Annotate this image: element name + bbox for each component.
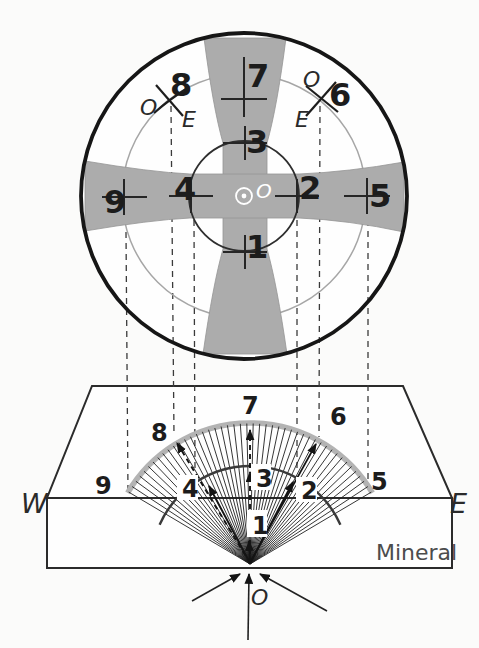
ordinary-ray-label-8: O: [140, 95, 157, 120]
extraordinary-ray-label-8: E: [182, 107, 196, 132]
point-4-label: 4: [174, 170, 196, 208]
point-8-label: 8: [170, 66, 192, 104]
ray-4-label: 4: [182, 475, 199, 503]
point-3-label: 3: [246, 123, 268, 161]
optical-mineralogy-diagram: O 7 3 1 9 4 2 5 8 6 O E O E: [0, 0, 479, 648]
ray-2-label: 2: [301, 477, 318, 505]
scanned-diagram-page: O 7 3 1 9 4 2 5 8 6 O E O E: [0, 0, 479, 648]
ray-8-label: 8: [151, 419, 168, 447]
center-o-label: O: [256, 179, 272, 203]
point-2-label: 2: [299, 169, 321, 207]
origin-o-label: O: [251, 585, 268, 610]
west-label: W: [21, 488, 49, 519]
ray-5-label: 5: [371, 468, 388, 496]
mineral-label: Mineral: [376, 540, 457, 565]
ray-9-label: 9: [95, 472, 112, 500]
incident-arrow-center: [248, 574, 249, 640]
point-1-label: 1: [246, 228, 268, 266]
point-9-label: 9: [104, 183, 126, 221]
ray-7-label: 7: [242, 392, 259, 420]
east-label: E: [450, 488, 467, 519]
point-5-label: 5: [369, 177, 391, 215]
point-7-label: 7: [247, 57, 269, 95]
ray-3-label: 3: [256, 465, 273, 493]
interference-figure: O 7 3 1 9 4 2 5 8 6 O E O E: [81, 33, 407, 359]
ray-6-label: 6: [330, 403, 347, 431]
center-dot: [242, 194, 247, 199]
extraordinary-ray-label-6: E: [295, 107, 309, 132]
ordinary-ray-label-6: O: [303, 67, 320, 92]
ray-1-label: 1: [252, 512, 269, 540]
point-6-label: 6: [329, 76, 351, 114]
